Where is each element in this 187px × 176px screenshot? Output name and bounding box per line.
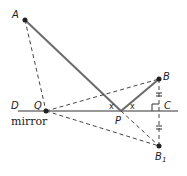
point-a [23,18,28,23]
label-c: C [164,100,171,111]
label-b1: B1 [155,151,166,164]
right-angle-mark [152,104,159,111]
dashed-q-to-b1 [46,111,159,146]
label-q: Q [34,100,42,111]
mirror-label: mirror [11,115,48,128]
point-q [44,109,49,114]
ray-p-to-b [121,79,159,111]
angle-label-right: x [130,102,135,111]
dashed-a-to-q [25,20,46,111]
label-p: P [115,115,122,126]
label-a: A [11,9,19,20]
point-b [157,77,162,82]
angle-label-left: x [109,102,114,111]
label-d: D [11,100,19,111]
label-b: B [163,71,170,82]
ray-a-to-p [25,20,121,111]
point-b1 [157,144,162,149]
dashed-q-to-b [46,79,159,111]
reflection-diagram: A B C D Q P B1 mirror x x [0,0,187,176]
dashed-p-to-b1 [121,111,159,146]
